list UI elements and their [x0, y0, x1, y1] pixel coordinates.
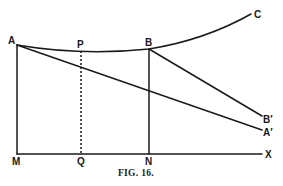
label-m: M: [12, 156, 20, 167]
label-b-prime: B′: [263, 114, 273, 125]
label-a: A: [8, 35, 15, 46]
label-p: P: [77, 39, 84, 50]
label-b: B: [145, 37, 152, 48]
figure-caption: FIG. 16.: [118, 168, 154, 178]
label-a-prime: A′: [263, 127, 273, 138]
label-q: Q: [77, 156, 85, 167]
label-n: N: [145, 156, 152, 167]
line-a-aprime: [17, 45, 262, 130]
label-c: C: [254, 9, 261, 20]
line-b-bprime: [149, 49, 262, 116]
label-x: X: [265, 149, 272, 160]
figure-16-diagram: A P B C B′ A′ M Q N X FIG. 16.: [0, 0, 283, 186]
curve-apbc: [17, 14, 251, 52]
